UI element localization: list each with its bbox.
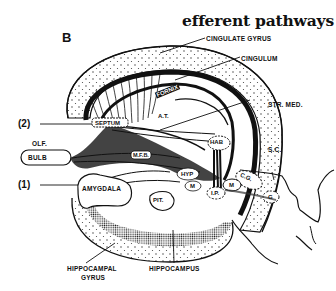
panel-label: B [62,30,71,45]
label-bulb: BULB [28,154,47,161]
brain-diagram: efferent pathways B CINGULATE GYRUS CING… [0,0,336,291]
label-midbrain-m: M [229,182,234,188]
label-anterior-thalamus: A.T. [158,113,169,119]
label-g: G [268,194,273,200]
label-hippocampal-gyrus-line2: GYRUS [81,274,105,281]
label-hippocampus: HIPPOCAMPUS [149,265,200,272]
figure-title: efferent pathways [182,11,334,30]
label-mammillary: M [190,183,195,189]
marker-2: (2) [18,118,30,129]
label-septum: SEPTUM [95,120,120,126]
label-hypothalamus: HYP [181,171,193,177]
marker-1: (1) [18,179,30,190]
label-olfactory: OLF. [32,140,47,147]
label-hippocampal-gyrus-line1: HIPPOCAMPAL [67,265,117,272]
diagram-drawing [0,0,336,291]
label-amygdala: AMYGDALA [82,185,121,192]
label-pituitary: PIT. [153,197,163,203]
label-stria-medullaris: STR. MED. [268,101,303,108]
label-cingulate-gyrus: CINGULATE GYRUS [206,35,271,42]
label-cingulum: CINGULUM [241,55,278,62]
label-superior-colliculus: S.C. [268,146,281,153]
label-interpeduncular: I.P. [211,190,219,196]
label-habenula: HAB [210,139,223,145]
label-mfb: M.F.B. [133,152,149,158]
